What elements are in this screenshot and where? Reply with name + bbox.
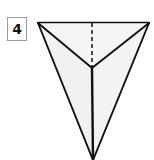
edge-center-to-apex — [92, 68, 93, 160]
tetrahedron-diagram — [0, 0, 154, 160]
figure-container: 4 — [0, 0, 154, 160]
